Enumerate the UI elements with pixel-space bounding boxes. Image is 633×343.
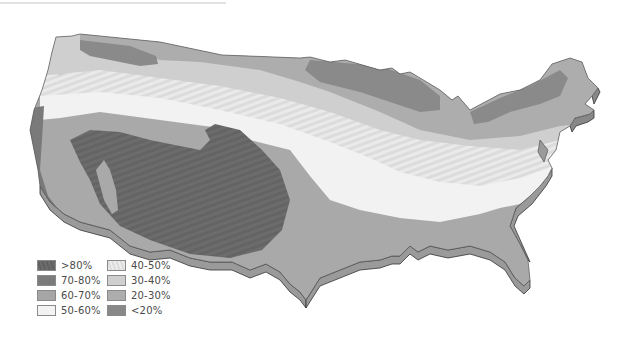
legend-item-lt20: <20% — [107, 303, 177, 317]
swatch-70-80 — [37, 275, 56, 286]
legend-label: 30-40% — [131, 275, 171, 286]
legend-label: 70-80% — [61, 275, 101, 286]
swatch-60-70 — [37, 290, 56, 301]
legend-label: <20% — [131, 305, 162, 316]
legend-label: >80% — [61, 260, 92, 271]
legend-item-50-60: 50-60% — [37, 303, 107, 317]
swatch-20-30 — [107, 290, 126, 301]
swatch-lt20 — [107, 305, 126, 316]
legend-label: 40-50% — [131, 260, 171, 271]
legend-label: 50-60% — [61, 305, 101, 316]
swatch-30-40 — [107, 275, 126, 286]
legend-label: 20-30% — [131, 290, 171, 301]
legend-item-20-30: 20-30% — [107, 288, 177, 302]
legend-label: 60-70% — [61, 290, 101, 301]
legend-item-30-40: 30-40% — [107, 273, 177, 287]
legend-item-60-70: 60-70% — [37, 288, 107, 302]
swatch-40-50 — [107, 260, 126, 271]
legend-item-70-80: 70-80% — [37, 273, 107, 287]
swatch-gt80 — [37, 260, 56, 271]
legend-item-40-50: 40-50% — [107, 258, 177, 272]
legend-item-gt80: >80% — [37, 258, 107, 272]
swatch-50-60 — [37, 305, 56, 316]
legend: >80% 40-50% 70-80% 30-40% 60-70% 20-30% … — [37, 258, 177, 317]
